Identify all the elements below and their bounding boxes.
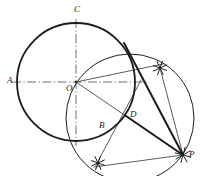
cross-stroke (92, 157, 105, 170)
radius-O-to-upper-mark (76, 64, 163, 82)
point-label-d: D (130, 110, 137, 119)
point-label-c: C (74, 5, 80, 14)
geometry-figure: ABCDOP (0, 0, 204, 176)
point-label-b: B (99, 121, 105, 130)
line-P-to-lower-mark (94, 155, 183, 167)
point-label-p: P (189, 150, 195, 159)
figure-canvas (0, 0, 204, 176)
point-label-a: A (7, 76, 13, 85)
cross-stroke (154, 62, 167, 75)
centre-point-O (75, 81, 77, 83)
point-label-o: O (66, 84, 73, 93)
